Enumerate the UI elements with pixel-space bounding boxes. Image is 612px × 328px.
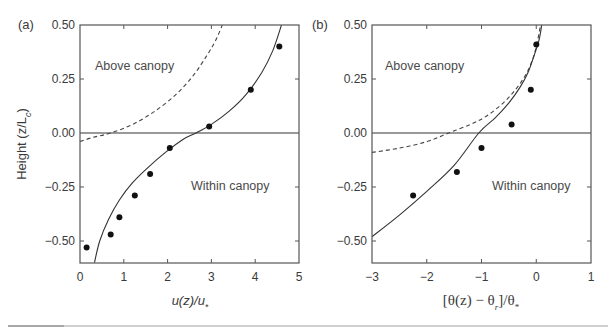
panel-b-y-tick-labels: 0.50 0.25 0.00 −0.25 −0.50 xyxy=(337,18,368,248)
data-point xyxy=(276,44,282,50)
data-point xyxy=(167,145,173,151)
panel-b-x-tick-labels: −3 −2 −1 0 1 xyxy=(365,270,595,284)
within-canopy-label: Within canopy xyxy=(492,179,571,193)
y-axis-title: Height (z/Lc) xyxy=(14,108,33,180)
data-point xyxy=(528,87,534,93)
data-point xyxy=(454,169,460,175)
y-tick-label: −0.25 xyxy=(45,180,76,194)
x-tick-label: 0 xyxy=(77,270,84,284)
x-tick-label: −3 xyxy=(365,270,379,284)
above-canopy-label: Above canopy xyxy=(95,59,175,73)
bottom-divider xyxy=(8,325,608,327)
x-tick-label: 2 xyxy=(164,270,171,284)
y-tick-label: −0.50 xyxy=(337,234,368,248)
data-point xyxy=(206,124,212,130)
x-tick-label: −2 xyxy=(420,270,434,284)
data-point xyxy=(84,245,90,251)
data-point xyxy=(509,121,515,127)
within-canopy-label: Within canopy xyxy=(191,179,270,193)
panel-a-x-tick-labels: 0 1 2 3 4 5 xyxy=(77,270,303,284)
data-point xyxy=(533,41,539,47)
data-point xyxy=(410,193,416,199)
data-point xyxy=(116,214,122,220)
y-tick-label: 0.50 xyxy=(52,18,76,32)
data-point xyxy=(147,171,153,177)
y-tick-label: 0.25 xyxy=(344,72,368,86)
x-axis-title: u(z)/u* xyxy=(172,293,209,312)
y-tick-label: −0.50 xyxy=(45,234,76,248)
x-tick-label: 1 xyxy=(120,270,127,284)
panel-b-label: (b) xyxy=(312,17,328,32)
y-tick-label: −0.25 xyxy=(337,180,368,194)
x-axis-title: [θ(z) − θr]/θ* xyxy=(443,292,520,312)
y-tick-label: 0.25 xyxy=(52,72,76,86)
x-tick-label: 1 xyxy=(588,270,595,284)
data-point xyxy=(248,87,254,93)
panel-a-label: (a) xyxy=(18,17,34,32)
panel-b: (b) 0.50 0.25 0.00 −0.25 −0.50 −3 −2 −1 … xyxy=(312,17,595,312)
data-point xyxy=(479,145,485,151)
solid-curve xyxy=(372,25,542,237)
panel-a-y-tick-labels: 0.50 0.25 0.00 −0.25 −0.50 xyxy=(45,18,76,248)
x-tick-label: −1 xyxy=(475,270,489,284)
data-point xyxy=(108,232,114,238)
dashed-curve xyxy=(80,25,222,142)
panel-b-plot-area xyxy=(372,25,591,237)
x-tick-label: 0 xyxy=(533,270,540,284)
data-points xyxy=(84,44,283,251)
x-tick-label: 3 xyxy=(208,270,215,284)
figure: (a) 0.50 0.25 0.00 −0.25 −0.50 Height (z… xyxy=(0,0,612,328)
bottom-divider-accent xyxy=(8,325,64,327)
y-tick-label: 0.00 xyxy=(52,126,76,140)
data-point xyxy=(132,193,138,199)
x-tick-label: 4 xyxy=(252,270,259,284)
y-tick-label: 0.00 xyxy=(344,126,368,140)
panel-a: (a) 0.50 0.25 0.00 −0.25 −0.50 Height (z… xyxy=(14,17,303,312)
x-tick-label: 5 xyxy=(296,270,303,284)
y-tick-label: 0.50 xyxy=(344,18,368,32)
above-canopy-label: Above canopy xyxy=(385,59,465,73)
